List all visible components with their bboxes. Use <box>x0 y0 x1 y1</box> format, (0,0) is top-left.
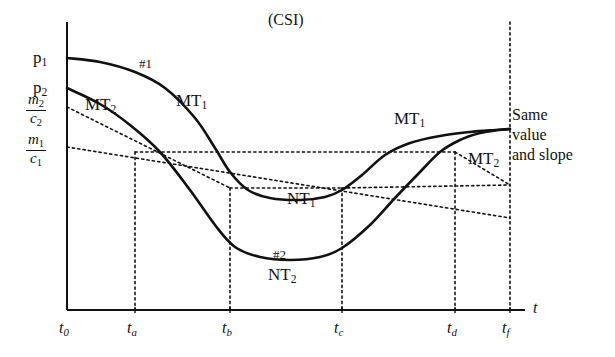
figure-title: (CSI) <box>268 12 304 28</box>
plot-canvas <box>0 0 615 357</box>
csi-figure: (CSI) p1p2m2c2m1c1 t0tatbtctdtf #1#2MT2M… <box>0 0 615 357</box>
annotation-line-2: value <box>512 125 573 145</box>
curve-label-nt2: NT2 <box>268 266 296 286</box>
x-tick-label-t0: t0 <box>59 320 69 338</box>
curve-label-nt1: NT1 <box>287 190 315 210</box>
curve-label-mt1-right: MT1 <box>394 110 425 130</box>
curve-label-mt2-right: MT2 <box>468 150 499 170</box>
curve-label-hash2: #2 <box>273 248 286 261</box>
x-axis-label: t <box>533 300 537 316</box>
x-tick-label-td: td <box>447 320 457 338</box>
same-value-and-slope-annotation: Samevalueand slope <box>512 105 573 165</box>
construction-line-nt1-to-td-descending <box>342 185 510 188</box>
x-tick-label-ta: ta <box>127 320 137 338</box>
x-tick-label-tb: tb <box>222 320 232 338</box>
y-axis-label-p1: p1 <box>33 49 47 69</box>
y-axis-label-m1c1: m1c1 <box>26 132 46 168</box>
curve-label-mt2-left: MT2 <box>85 96 116 116</box>
y-axis-label-m2c2: m2c2 <box>26 92 46 128</box>
x-tick-label-tf: tf <box>502 320 509 338</box>
construction-line-m2c2-descending <box>67 107 230 188</box>
annotation-line-1: Same <box>512 105 573 125</box>
curve-label-mt1-left: MT1 <box>176 92 207 112</box>
curve-label-hash1: #1 <box>139 57 152 70</box>
annotation-line-3: and slope <box>512 145 573 165</box>
curve-hash2 <box>67 88 510 260</box>
x-tick-label-tc: tc <box>334 320 343 338</box>
